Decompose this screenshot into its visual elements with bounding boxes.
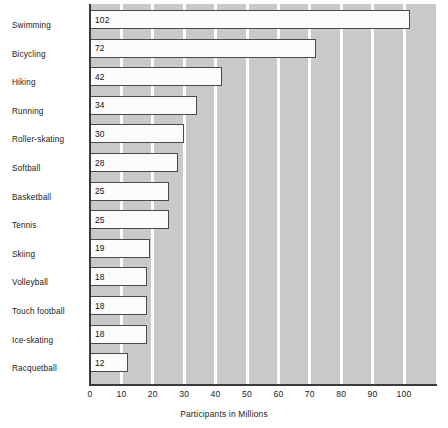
- bar-value-label: 102: [90, 15, 110, 25]
- category-label-row: Volleyball: [0, 273, 84, 292]
- x-tick-label: 80: [336, 389, 346, 399]
- category-label-row: Softball: [0, 159, 84, 178]
- category-label-row: Bicycling: [0, 45, 84, 64]
- category-label: Swimming: [0, 21, 51, 30]
- category-label: Running: [0, 107, 44, 116]
- x-tick-label: 20: [148, 389, 158, 399]
- bar: 30: [90, 124, 184, 143]
- bar: 28: [90, 153, 178, 172]
- gridline: [246, 4, 249, 384]
- bar-value-label: 25: [90, 215, 105, 225]
- x-tick-label: 100: [397, 389, 412, 399]
- category-label-row: Skiing: [0, 245, 84, 264]
- x-tick-label: 90: [368, 389, 378, 399]
- category-axis: SwimmingBicyclingHikingRunningRoller-ska…: [0, 10, 88, 384]
- bar: 34: [90, 96, 197, 115]
- category-label: Racquetball: [0, 364, 57, 373]
- category-label-row: Swimming: [0, 16, 84, 35]
- category-label: Skiing: [0, 250, 35, 259]
- gridline: [403, 4, 406, 384]
- bar-value-label: 28: [90, 158, 105, 168]
- category-label-row: Touch football: [0, 302, 84, 321]
- category-label-row: Hiking: [0, 73, 84, 92]
- bar: 25: [90, 210, 169, 229]
- bar-value-label: 72: [90, 43, 105, 53]
- x-tick-label: 40: [211, 389, 221, 399]
- plot-area: 102724234302825251918181812: [90, 4, 436, 384]
- bar-value-label: 34: [90, 100, 105, 110]
- gridline: [340, 4, 343, 384]
- bar-chart: SwimmingBicyclingHikingRunningRoller-ska…: [0, 0, 448, 428]
- bar: 19: [90, 239, 150, 258]
- bar: 72: [90, 39, 316, 58]
- category-label: Hiking: [0, 78, 36, 87]
- bar-value-label: 18: [90, 301, 105, 311]
- category-label-row: Racquetball: [0, 359, 84, 378]
- x-tick-label: 70: [305, 389, 315, 399]
- x-tick-label: 0: [88, 389, 93, 399]
- category-label: Bicycling: [0, 50, 46, 59]
- category-label-row: Tennis: [0, 216, 84, 235]
- category-label: Softball: [0, 164, 41, 173]
- bar-value-label: 18: [90, 329, 105, 339]
- gridline: [371, 4, 374, 384]
- bar-value-label: 30: [90, 129, 105, 139]
- bar: 42: [90, 67, 222, 86]
- gridline: [308, 4, 311, 384]
- category-label: Tennis: [0, 221, 37, 230]
- bar: 12: [90, 353, 128, 372]
- y-axis-line: [89, 4, 91, 385]
- x-axis-tick-labels: 0102030405060708090100: [0, 389, 448, 403]
- category-label: Touch football: [0, 307, 65, 316]
- bar: 25: [90, 182, 169, 201]
- category-label-row: Ice-skating: [0, 331, 84, 350]
- bar-value-label: 12: [90, 358, 105, 368]
- bar: 18: [90, 325, 147, 344]
- bar: 102: [90, 10, 410, 29]
- category-label: Roller-skating: [0, 135, 64, 144]
- bar: 18: [90, 267, 147, 286]
- bar-value-label: 42: [90, 72, 105, 82]
- x-tick-label: 60: [273, 389, 283, 399]
- bar: 18: [90, 296, 147, 315]
- x-tick-label: 50: [242, 389, 252, 399]
- gridline: [183, 4, 186, 384]
- bar-value-label: 18: [90, 272, 105, 282]
- category-label: Volleyball: [0, 278, 48, 287]
- x-axis-title: Participants in Millions: [0, 409, 448, 419]
- bar-value-label: 19: [90, 243, 105, 253]
- x-tick-label: 10: [116, 389, 126, 399]
- x-tick-label: 30: [179, 389, 189, 399]
- category-label: Basketball: [0, 193, 51, 202]
- gridline: [277, 4, 280, 384]
- category-label-row: Roller-skating: [0, 130, 84, 149]
- category-label-row: Running: [0, 102, 84, 121]
- category-label-row: Basketball: [0, 188, 84, 207]
- x-axis-line: [89, 384, 437, 386]
- bar-value-label: 25: [90, 186, 105, 196]
- gridline: [214, 4, 217, 384]
- category-label: Ice-skating: [0, 336, 53, 345]
